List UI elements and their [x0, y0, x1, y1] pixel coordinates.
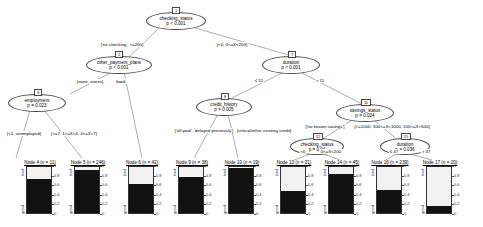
axis-tick-label: 1: [54, 164, 56, 168]
class-label-bad: bad: [370, 169, 375, 176]
axis-tick-label: 0.4: [308, 193, 314, 197]
edge-label-3-5: {>=7, 1<=X<4, 4<=X<7}: [50, 131, 98, 136]
node-p-value: p = 0.024: [337, 113, 393, 118]
class-bar: [74, 166, 100, 214]
class-label-good: good: [222, 205, 227, 214]
axis-tick-label: 0.8: [308, 174, 314, 178]
edge-label-11-12: {'no known savings'}: [304, 124, 346, 129]
class-bar: [328, 166, 354, 214]
node-id-badge: 8: [221, 93, 229, 100]
class-label-bad: bad: [68, 169, 73, 176]
axis-tick-label: 1: [206, 164, 208, 168]
leaf-node-13: Node 13 (n = 21) 10.80.60.40.20badgood: [274, 160, 314, 227]
axis-tick-label: 0.6: [356, 183, 362, 187]
good-fill: [129, 184, 153, 213]
axis-tick-label: 0: [256, 212, 258, 216]
axis-tick-label: 0: [102, 212, 104, 216]
edge-label-12-13: <0: [299, 149, 306, 154]
edge-label-7-11: > 11: [315, 78, 325, 83]
edge-label-8-10: {critical/other existing credit}: [236, 128, 293, 133]
leaf-node-5: Node 5 (n = 246) 10.80.60.40.20badgood: [68, 160, 108, 227]
class-label-good: good: [274, 205, 279, 214]
axis-tick-label: 0.6: [256, 183, 262, 187]
class-label-good: good: [420, 205, 425, 214]
class-label-bad: bad: [274, 169, 279, 176]
node-id-badge: 2: [115, 51, 123, 58]
axis-tick-label: 0: [206, 212, 208, 216]
axis-tick-label: 0.8: [54, 174, 60, 178]
axis-tick-label: 0.6: [454, 183, 460, 187]
node-p-value: p = 0.005: [197, 107, 251, 112]
class-label-bad: bad: [122, 169, 127, 176]
class-label-bad: bad: [172, 169, 177, 176]
axis-tick-label: 0.4: [256, 193, 262, 197]
class-bar: [228, 166, 254, 214]
axis-tick-label: 0.6: [102, 183, 108, 187]
axis-tick-label: 0.4: [454, 193, 460, 197]
inner-node-2: other_payment_plans p < 0.001: [86, 56, 152, 74]
class-bar: [426, 166, 452, 214]
axis-tick-label: 0.8: [454, 174, 460, 178]
edge-label-7-8: ≤ 11: [254, 78, 264, 83]
axis-tick-label: 0.6: [206, 183, 212, 187]
class-label-good: good: [122, 205, 127, 214]
class-label-good: good: [20, 205, 25, 214]
class-label-bad: bad: [420, 169, 425, 176]
class-label-good: good: [68, 205, 73, 214]
axis-tick-label: 0.8: [206, 174, 212, 178]
axis-tick-label: 0.2: [102, 202, 108, 206]
node-p-value: p < 0.001: [263, 65, 319, 70]
node-id-badge: 11: [361, 99, 371, 106]
edge-label-15-16: ≤ 47: [389, 149, 400, 154]
node-id-badge: 12: [313, 133, 323, 140]
edge-label-15-17: > 47: [421, 149, 432, 154]
leaf-node-9: Node 9 (n = 38) 10.80.60.40.20badgood: [172, 160, 212, 227]
good-fill: [179, 177, 203, 213]
edge-label-1-2: {'no checking', >=200}: [100, 42, 145, 47]
axis-tick-label: 0.8: [156, 174, 162, 178]
axis-tick-label: 0.4: [156, 193, 162, 197]
axis-tick-label: 0.8: [102, 174, 108, 178]
class-bar: [26, 166, 52, 214]
axis-tick-label: 0.6: [308, 183, 314, 187]
leaf-node-14: Node 14 (n = 45) 10.80.60.40.20badgood: [322, 160, 362, 227]
class-label-bad: bad: [222, 169, 227, 176]
node-p-value: p < 0.001: [87, 65, 151, 70]
axis-tick-label: 0.2: [308, 202, 314, 206]
edge-label-12-14: 0<=X<200: [320, 149, 342, 154]
node-p-value: p < 0.001: [147, 21, 205, 26]
good-fill: [75, 170, 99, 213]
axis-tick-label: 0: [356, 212, 358, 216]
class-bar: [280, 166, 306, 214]
good-fill: [27, 179, 51, 213]
inner-node-3: employment p = 0.023: [8, 94, 66, 112]
axis-tick-label: 1: [404, 164, 406, 168]
axis-tick-label: 1: [156, 164, 158, 168]
good-fill: [427, 206, 451, 213]
good-fill: [281, 191, 305, 213]
axis-tick-label: 0: [454, 212, 456, 216]
axis-tick-label: 0.4: [206, 193, 212, 197]
inner-node-8: credit_history p = 0.005: [196, 98, 252, 116]
axis-tick-label: 0.4: [54, 193, 60, 197]
class-label-bad: bad: [20, 169, 25, 176]
axis-tick-label: 0.2: [454, 202, 460, 206]
axis-tick-label: 0.2: [156, 202, 162, 206]
node-id-badge: 7: [288, 51, 296, 58]
class-label-good: good: [322, 205, 327, 214]
good-fill: [377, 190, 401, 213]
inner-node-1: checking_status p < 0.001: [146, 12, 206, 30]
axis-tick-label: 1: [256, 164, 258, 168]
axis-tick-label: 0: [308, 212, 310, 216]
node-id-badge: 3: [34, 89, 42, 96]
node-id-badge: 15: [401, 133, 411, 140]
class-label-good: good: [370, 205, 375, 214]
node-id-badge: 1: [172, 7, 180, 14]
axis-tick-label: 0.8: [356, 174, 362, 178]
edge-label-3-4: {<1, unemployed}: [6, 131, 42, 136]
class-bar: [128, 166, 154, 214]
axis-tick-label: 1: [454, 164, 456, 168]
axis-tick-label: 0.4: [404, 193, 410, 197]
decision-tree-diagram: checking_status p < 0.001 1 other_paymen…: [0, 0, 483, 227]
axis-tick-label: 0.4: [102, 193, 108, 197]
